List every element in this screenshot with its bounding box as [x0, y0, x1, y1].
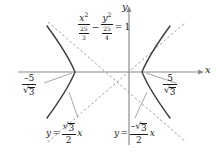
asym-left-radicand: 3 — [68, 123, 75, 133]
asymptote-label-positive: y = √ 3 2 x — [46, 122, 82, 145]
asym-left-equals: = — [53, 129, 61, 138]
equation-right-side: 1 — [124, 23, 130, 32]
term2-den-num: 25 — [102, 26, 112, 32]
asym-right-radical: √ 3 — [135, 122, 147, 133]
right-vertex-denominator: √ 3 — [163, 86, 177, 97]
leader-lines — [44, 73, 176, 118]
equation-equals-sign: = — [115, 23, 123, 32]
asym-right-numerator: – √ 3 — [130, 122, 148, 133]
term2-exponent: 2 — [108, 11, 112, 18]
left-vertex-fraction: –5 √ 3 — [22, 74, 36, 97]
leader-line-asymptote-right — [135, 92, 147, 118]
term1-den-num: 25 — [79, 26, 89, 32]
left-vertex-radical: √ 3 — [23, 86, 35, 97]
hyperbola-figure: y x x2 25 3 − y2 25 4 — [0, 0, 217, 152]
term2-den-den: 4 — [104, 35, 110, 41]
right-radicand: 3 — [169, 87, 176, 97]
term1-denominator-fraction: 25 3 — [79, 26, 89, 41]
left-vertex-label: –5 √ 3 — [22, 74, 36, 97]
right-vertex-numerator: 5 — [166, 74, 174, 83]
term1-numerator: x2 — [78, 14, 89, 23]
right-vertex-label: 5 √ 3 — [163, 74, 177, 97]
y-axis-label: y — [122, 2, 128, 12]
left-radicand: 3 — [28, 87, 35, 97]
asym-left-variable: x — [77, 129, 82, 138]
asym-right-denominator: 2 — [135, 136, 143, 145]
left-vertex-denominator: √ 3 — [22, 86, 36, 97]
x-axis-label: x — [205, 65, 211, 75]
asym-left-radical: √ 3 — [63, 122, 75, 133]
asym-right-radicand: 3 — [140, 123, 147, 133]
hyperbola-equation: x2 25 3 − y2 25 4 = 1 — [78, 14, 130, 41]
term1-exponent: 2 — [84, 11, 88, 18]
left-vertex-numerator: –5 — [23, 74, 35, 83]
leader-line-asymptote-left — [69, 92, 78, 118]
term2-denominator: 25 4 — [101, 26, 113, 41]
right-vertex-fraction: 5 √ 3 — [163, 74, 177, 97]
asym-right-lhs: y — [114, 129, 119, 138]
asymptote-label-negative: y = – √ 3 2 x — [114, 122, 155, 145]
asym-left-fraction: √ 3 2 — [62, 122, 76, 145]
asym-right-equals: = — [121, 129, 129, 138]
equation-minus-operator: − — [92, 23, 100, 32]
asym-left-numerator: √ 3 — [62, 122, 76, 133]
asym-left-denominator: 2 — [65, 136, 73, 145]
leader-line-left-vertex — [44, 73, 72, 83]
asym-right-variable: x — [150, 129, 155, 138]
right-vertex-radical: √ 3 — [164, 86, 176, 97]
term1-den-den: 3 — [81, 35, 87, 41]
asym-left-lhs: y — [46, 129, 51, 138]
equation-term-1: x2 25 3 — [78, 14, 90, 41]
term2-numerator: y2 — [102, 14, 113, 23]
asym-right-fraction: – √ 3 2 — [130, 122, 148, 145]
term2-denominator-fraction: 25 4 — [102, 26, 112, 41]
term1-denominator: 25 3 — [78, 26, 90, 41]
equation-term-2: y2 25 4 — [101, 14, 113, 41]
